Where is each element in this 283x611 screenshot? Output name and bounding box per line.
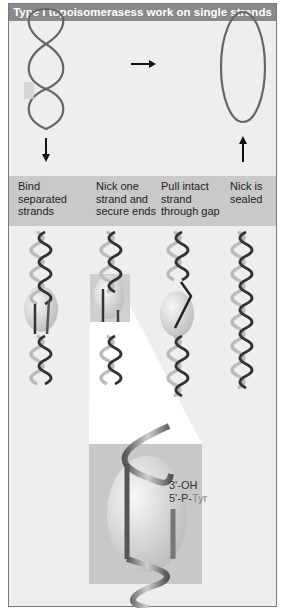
relaxed-loop-icon — [221, 12, 265, 122]
helix-step-4 — [232, 232, 252, 388]
supercoiled-loop-icon — [29, 9, 64, 129]
figure-frame: Type I topoisomerasess work on single st… — [8, 3, 277, 607]
down-arrow-icon — [42, 138, 50, 162]
helix-step-3 — [160, 232, 194, 396]
phospho-prefix: 5'-P- — [169, 492, 192, 504]
helix-step-1 — [24, 232, 58, 384]
tyr-label: Tyr — [192, 492, 207, 504]
oh-end-label: 3'-OH — [169, 479, 197, 492]
highlight-marker — [24, 82, 34, 99]
up-arrow-icon — [239, 136, 247, 162]
right-arrow-icon — [131, 60, 156, 68]
diagram-graphics — [9, 4, 278, 608]
tyr-end-label: 5'-P-Tyr — [169, 492, 207, 505]
